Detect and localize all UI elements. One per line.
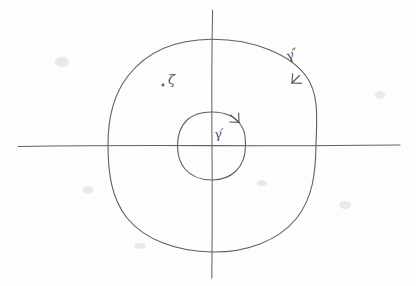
horizontal-axis	[18, 145, 400, 146]
inner-contour-arrowhead	[230, 113, 239, 122]
figure-canvas: γ″ γ′ ζ	[0, 0, 416, 286]
vertical-axis	[212, 10, 213, 278]
coordinate-axes	[18, 10, 400, 278]
zeta-point-group: ζ	[162, 72, 176, 87]
outer-contour-arrowhead	[292, 74, 301, 84]
paper-noise	[55, 57, 385, 249]
inner-contour-label: γ′	[213, 125, 226, 142]
zeta-point-label: ζ	[168, 72, 176, 87]
outer-contour-label: γ″	[283, 45, 301, 64]
diagram-svg: γ″ γ′ ζ	[0, 0, 416, 286]
zeta-point-dot	[162, 84, 165, 87]
